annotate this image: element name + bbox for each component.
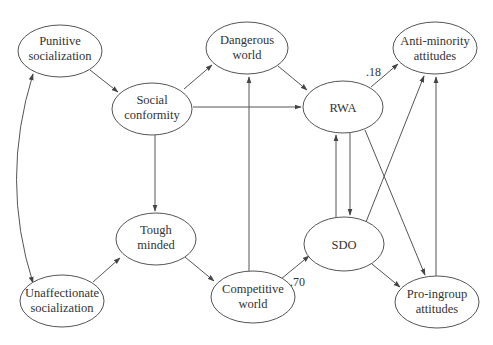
node-label-line1: Competitive (222, 282, 284, 296)
node-label-line2: world (238, 297, 268, 311)
edge-dangerous-to-rwa (278, 66, 307, 90)
edge-tough-to-competitive (185, 257, 214, 281)
edge-conformity-to-dangerous (184, 65, 212, 89)
node-label-line2: attitudes (414, 49, 456, 63)
node-tough-minded: Tough minded (116, 213, 196, 265)
node-competitive-world: Competitive world (211, 271, 295, 323)
edge-unaffectionate-to-tough (93, 258, 120, 282)
node-unaffectionate-socialization: Unaffectionate socialization (20, 275, 104, 327)
node-label-line2: socialization (28, 49, 92, 63)
node-rwa: RWA (303, 81, 383, 133)
edge-punitive-to-conformity (90, 70, 118, 92)
edge-label-rwa-antiminority: .18 (366, 65, 381, 79)
node-label-line2: attitudes (416, 302, 458, 316)
edge-punitive-unaffectionate-correlation (17, 74, 34, 283)
node-label: RWA (329, 101, 356, 115)
node-label-line2: socialization (30, 301, 94, 315)
node-dangerous-world: Dangerous world (206, 22, 288, 74)
node-label-line1: Anti-minority (400, 34, 470, 48)
node-label: SDO (331, 238, 356, 252)
node-anti-minority-attitudes: Anti-minority attitudes (393, 22, 477, 74)
node-label-line1: Dangerous (220, 33, 274, 47)
node-label-line1: Unaffectionate (25, 286, 99, 300)
node-label-line2: conformity (124, 108, 180, 122)
node-label-line2: minded (137, 238, 175, 252)
node-punitive-socialization: Punitive socialization (18, 25, 102, 77)
node-pro-ingroup-attitudes: Pro-ingroup attitudes (395, 276, 479, 328)
node-label-line2: world (232, 48, 262, 62)
edge-sdo-to-proingroup (372, 264, 400, 287)
node-label-line1: Tough (140, 223, 173, 237)
path-diagram: .18 .70 Punitive socialization Dangerous… (0, 0, 493, 345)
node-label-line1: Pro-ingroup (407, 287, 467, 301)
node-label-line1: Punitive (39, 34, 81, 48)
node-social-conformity: Social conformity (112, 83, 192, 135)
node-label-line1: Social (136, 93, 168, 107)
node-sdo: SDO (304, 217, 384, 271)
